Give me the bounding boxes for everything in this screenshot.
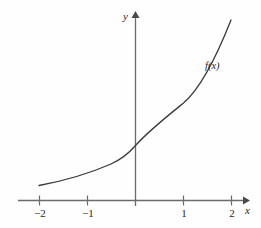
tick-label-pos1: 1: [174, 208, 194, 219]
y-axis-label: y: [123, 11, 128, 22]
tick-label-pos2: 2: [222, 208, 242, 219]
curve-function-label: f(x): [205, 61, 220, 72]
graph-canvas: [0, 0, 261, 228]
y-axis-arrow-icon: [132, 11, 140, 18]
x-axis-label: x: [245, 205, 250, 216]
tick-label-neg2: −2: [30, 208, 50, 219]
function-graph-figure: −2 −1 1 2 x y f(x): [0, 0, 261, 228]
tick-label-neg1: −1: [78, 208, 98, 219]
